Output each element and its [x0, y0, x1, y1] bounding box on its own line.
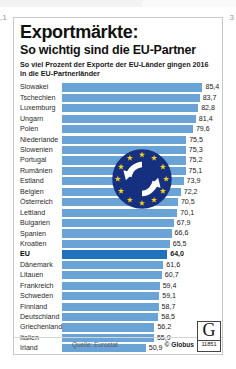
bar-category-label: Litauen: [14, 271, 62, 279]
bar-value-label: 73,9: [187, 177, 201, 185]
bar-row: Frankreich59,4: [14, 281, 222, 291]
bar-track: 75,2: [62, 156, 222, 164]
globus-logo-number: 11851: [198, 340, 220, 347]
bar-track: 75,5: [62, 136, 222, 144]
bar-track: 75,3: [62, 146, 222, 154]
bar-row: Slowenien75,3: [14, 145, 222, 155]
bar-track: 85,4: [62, 83, 222, 91]
bar: [62, 188, 181, 196]
bar: [62, 115, 196, 123]
bar-value-label: 64,0: [170, 250, 184, 258]
source-label: Quelle: Eurostat: [72, 341, 118, 348]
bar-value-label: 70,5: [181, 198, 195, 206]
bar: [62, 303, 159, 311]
bar-category-label: Kroatien: [14, 240, 62, 248]
bar-category-label: Tschechien: [14, 94, 62, 102]
bar-value-label: 81,4: [199, 115, 213, 123]
bar-category-label: Rumänien: [14, 167, 62, 175]
bar: [62, 292, 159, 300]
bar: [62, 250, 167, 258]
bar-category-label: Slowakei: [14, 83, 62, 91]
bar-track: 72,2: [62, 188, 222, 196]
bar-track: 79,6: [62, 125, 222, 133]
bar-value-label: 75,3: [189, 146, 203, 154]
bar-value-label: 82,8: [201, 104, 215, 112]
bar-value-label: 65,5: [173, 240, 187, 248]
bar-value-label: 79,6: [196, 125, 210, 133]
bar-row: Portugal75,2: [14, 155, 222, 165]
bar-track: 81,4: [62, 115, 222, 123]
bar: [62, 156, 186, 164]
copyright-label: © Globus: [165, 341, 194, 348]
bar: [62, 104, 198, 112]
bar: [62, 261, 163, 269]
bar-value-label: 59,4: [163, 282, 177, 290]
bar: [62, 209, 177, 217]
bar-track: 75,1: [62, 167, 222, 175]
bar-track: 70,1: [62, 209, 222, 217]
bar: [62, 146, 186, 154]
bar-value-label: 58,7: [162, 303, 176, 311]
page-edge-smudge: [0, 0, 236, 7]
bar-value-label: 83,7: [203, 94, 217, 102]
bar-value-label: 56,2: [157, 323, 171, 331]
page-edge-right-fragment: 3: [230, 14, 234, 22]
bar-value-label: 75,2: [189, 156, 203, 164]
bar-category-label: Dänemark: [14, 261, 62, 269]
bar-track: 66,6: [62, 229, 222, 237]
bar-row: Belgien72,2: [14, 187, 222, 197]
bar-value-label: 61,6: [166, 261, 180, 269]
bar-category-label: Lettland: [14, 209, 62, 217]
bar-row: Rumänien75,1: [14, 166, 222, 176]
bar-row: Spanien66,6: [14, 228, 222, 238]
bar-value-label: 66,6: [175, 229, 189, 237]
page-subtitle: So wichtig sind die EU-Partner: [20, 43, 222, 57]
infographic-page: ,1 3 Exportmärkte: So wichtig sind die E…: [0, 0, 236, 369]
bar-value-label: 67,9: [177, 219, 191, 227]
bar-track: 82,8: [62, 104, 222, 112]
bar: [62, 94, 200, 102]
bar-track: 65,5: [62, 240, 222, 248]
bar-row: Finnland58,7: [14, 301, 222, 311]
bar: [62, 167, 186, 175]
bar-track: 59,4: [62, 282, 222, 290]
bar-row: Österreich70,5: [14, 197, 222, 207]
bar-category-label: Belgien: [14, 188, 62, 196]
bar-value-label: 58,5: [161, 313, 175, 321]
bar-category-label: Österreich: [14, 198, 62, 206]
bar: [62, 229, 172, 237]
bar-track: 73,9: [62, 177, 222, 185]
bar-category-label: Portugal: [14, 156, 62, 164]
bar-row: Tschechien83,7: [14, 93, 222, 103]
chart-footer: Quelle: Eurostat © Globus G 11851: [14, 337, 222, 354]
page-title: Exportmärkte:: [20, 23, 222, 42]
bar-value-label: 70,1: [180, 209, 194, 217]
bar-category-label: Polen: [14, 125, 62, 133]
bar-value-label: 85,4: [205, 83, 219, 91]
bar: [62, 136, 186, 144]
bar-row: Niederlande75,5: [14, 134, 222, 144]
bar-row: Slowakei85,4: [14, 82, 222, 92]
bar: [62, 323, 154, 331]
bar-row: Luxemburg82,8: [14, 103, 222, 113]
bar-row: Schweden59,1: [14, 291, 222, 301]
bar-category-label: Bulgarien: [14, 219, 62, 227]
bar-row: Dänemark61,6: [14, 260, 222, 270]
bar: [62, 125, 193, 133]
globus-logo-letter: G: [203, 321, 216, 339]
bar-row: Lettland70,1: [14, 207, 222, 217]
globus-logo: G 11851: [197, 321, 221, 352]
bar: [62, 282, 160, 290]
bar-category-label: Slowenien: [14, 146, 62, 154]
bar: [62, 271, 162, 279]
bar-row: Deutschland58,5: [14, 312, 222, 322]
bar: [62, 240, 170, 248]
bar-category-label: Finnland: [14, 303, 62, 311]
bar-category-label: Niederlande: [14, 136, 62, 144]
bar-category-label: Deutschland: [14, 313, 62, 321]
bar-row: Kroatien65,5: [14, 239, 222, 249]
page-edge-left-fragment: ,1: [0, 14, 7, 22]
bar-row: Ungarn81,4: [14, 114, 222, 124]
bar-category-label: Ungarn: [14, 115, 62, 123]
bar-row: Bulgarien67,9: [14, 218, 222, 228]
